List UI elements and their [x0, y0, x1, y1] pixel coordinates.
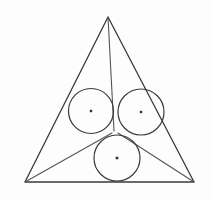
inner-segment-bottomright-to-junction — [118, 133, 194, 182]
center-dot-left-circle — [90, 110, 92, 112]
figure-canvas — [0, 0, 214, 199]
geometry-figure — [0, 0, 214, 199]
center-dot-right-circle — [140, 111, 142, 113]
center-dot-bottom-circle — [116, 157, 119, 160]
